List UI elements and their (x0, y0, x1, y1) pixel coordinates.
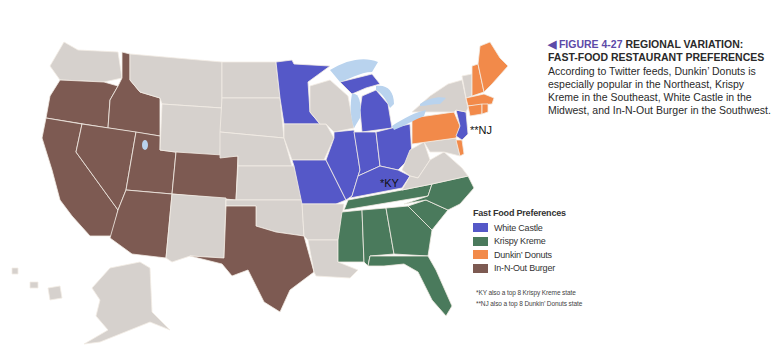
state-ny (412, 80, 468, 112)
legend-item-krispy-kreme: Krispy Kreme (473, 235, 566, 249)
state-sd (220, 98, 284, 138)
state-ri (482, 104, 488, 114)
state-fl (368, 256, 452, 316)
state-ak (84, 262, 170, 344)
state-nm (166, 194, 226, 262)
caption-marker-icon: ◀ (548, 38, 556, 50)
state-nd (222, 62, 280, 98)
legend-item-in-n-out: In-N-Out Burger (473, 262, 566, 276)
state-ar (302, 204, 344, 240)
legend-label: Krispy Kreme (494, 236, 546, 246)
state-hi-2 (30, 282, 38, 288)
state-wy (160, 104, 222, 158)
legend-item-dunkin-donuts: Dunkin’ Donuts (473, 248, 566, 262)
legend-swatch (473, 250, 488, 259)
map-legend: Fast Food Preferences White Castle Krisp… (473, 208, 566, 275)
state-ms (338, 210, 364, 262)
footnotes: *KY also a top 8 Krispy Kreme state **NJ… (476, 287, 582, 309)
legend-title: Fast Food Preferences (473, 208, 566, 218)
legend-label: In-N-Out Burger (494, 263, 555, 273)
state-hi-3 (48, 286, 62, 300)
state-ia (284, 124, 334, 160)
figure-caption: ◀ FIGURE 4-27 REGIONAL VARIATION: FAST-F… (548, 38, 773, 118)
state-hi (12, 268, 18, 274)
footnote-ky: *KY also a top 8 Krispy Kreme state (476, 287, 582, 298)
figure-body: According to Twitter feeds, Dunkin’ Donu… (548, 65, 771, 117)
legend-label: White Castle (494, 223, 543, 233)
great-salt-lake (142, 140, 148, 150)
legend-label: Dunkin’ Donuts (494, 250, 552, 260)
figure-number: FIGURE 4-27 (559, 38, 623, 50)
legend-swatch (473, 237, 488, 246)
footnote-nj: **NJ also a top 8 Dunkin’ Donuts state (476, 298, 582, 309)
legend-item-white-castle: White Castle (473, 221, 566, 235)
state-wa (50, 42, 122, 82)
legend-swatch (473, 264, 488, 273)
map-states (12, 42, 508, 344)
legend-swatch (473, 223, 488, 232)
nj-annotation: **NJ (470, 124, 492, 136)
state-ct (468, 104, 482, 116)
state-me (478, 42, 508, 92)
state-ks (236, 166, 302, 200)
ky-annotation: *KY (380, 177, 399, 189)
state-co (172, 152, 238, 200)
